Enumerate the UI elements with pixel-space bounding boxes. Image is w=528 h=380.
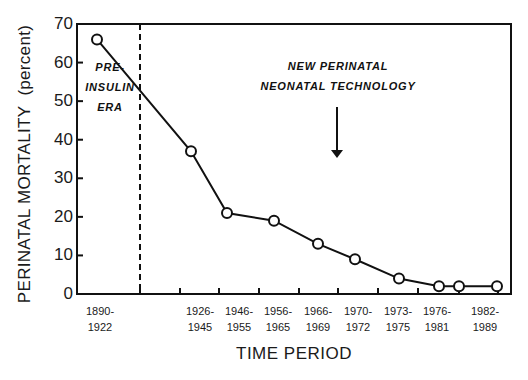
preinsulin-era-annotation: PRE- INSULIN ERA (80, 57, 140, 117)
x-tick-label: 1976-1981 (412, 303, 462, 335)
data-point-marker (454, 281, 464, 291)
y-tick-label: 0 (45, 284, 73, 304)
y-tick-label: 10 (45, 245, 73, 265)
data-point-marker (492, 281, 502, 291)
data-point-marker (313, 239, 323, 249)
y-axis-label: PERINATAL MORTALITY (percent) (15, 25, 35, 303)
y-tick-label: 50 (45, 91, 73, 111)
data-point-marker (186, 146, 196, 156)
y-axis-label-unit: (percent) (15, 25, 34, 96)
data-point-marker (92, 34, 102, 44)
y-axis-label-main: PERINATAL MORTALITY (15, 106, 34, 303)
data-point-marker (394, 274, 404, 284)
x-tick-label: 1890-1922 (75, 303, 125, 335)
y-tick-label: 40 (45, 130, 73, 150)
x-tick-label: 1982-1989 (460, 303, 510, 335)
new-technology-annotation: NEW PERINATAL NEONATAL TECHNOLOGY (258, 56, 418, 96)
data-point-marker (350, 254, 360, 264)
annotation-line: INSULIN (80, 77, 140, 97)
y-tick-label: 30 (45, 168, 73, 188)
annotation-line: ERA (80, 97, 140, 117)
y-tick-label: 60 (45, 53, 73, 73)
annotation-line: PRE- (80, 57, 140, 77)
annotation-line: NEW PERINATAL (258, 56, 418, 76)
data-point-marker (269, 216, 279, 226)
data-point-marker (222, 208, 232, 218)
x-axis-label: TIME PERIOD (236, 344, 352, 364)
down-arrow-icon (331, 107, 343, 158)
annotation-line: NEONATAL TECHNOLOGY (258, 76, 418, 96)
y-tick-label: 70 (45, 14, 73, 34)
y-tick-label: 20 (45, 207, 73, 227)
data-point-marker (434, 281, 444, 291)
